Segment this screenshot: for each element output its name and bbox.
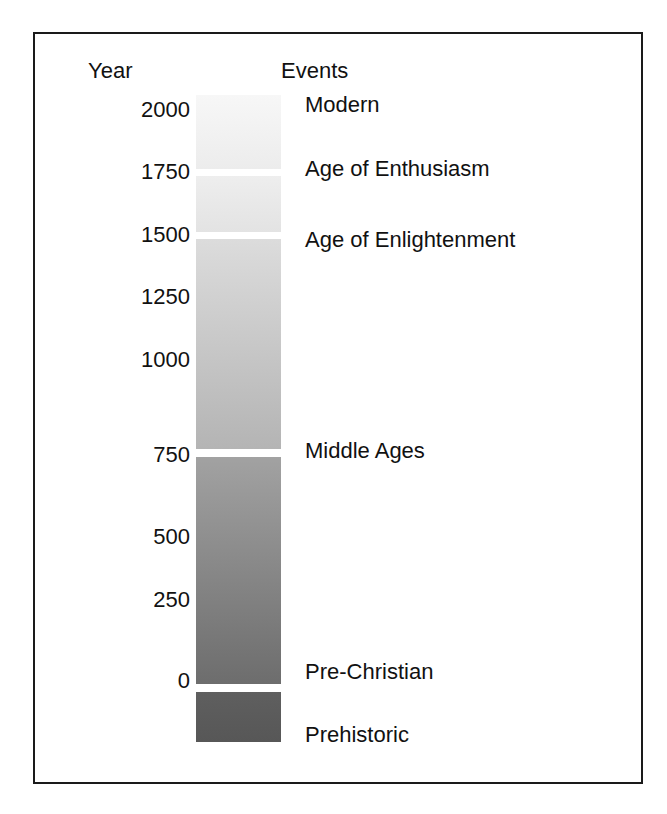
year-tick-label: 0 — [70, 670, 190, 692]
event-label: Middle Ages — [305, 440, 425, 462]
event-label: Age of Enthusiasm — [305, 158, 490, 180]
event-label: Prehistoric — [305, 724, 409, 746]
colorbar-segment — [196, 238, 281, 449]
year-tick-label: 750 — [70, 444, 190, 466]
event-label: Pre-Christian — [305, 661, 433, 683]
year-tick-label: 250 — [70, 589, 190, 611]
colorbar-segment — [196, 95, 281, 169]
year-axis: 200017501500125010007505002500 — [66, 0, 190, 814]
colorbar-separator — [196, 235, 281, 239]
year-tick-label: 1000 — [70, 349, 190, 371]
event-label: Age of Enlightenment — [305, 229, 515, 251]
year-tick-label: 2000 — [70, 99, 190, 121]
events-axis: ModernAge of EnthusiasmAge of Enlightenm… — [305, 0, 635, 814]
year-tick-label: 1750 — [70, 161, 190, 183]
colorbar-separator — [196, 688, 281, 692]
colorbar-separator — [196, 453, 281, 457]
colorbar-segment — [196, 691, 281, 742]
year-tick-label: 1250 — [70, 286, 190, 308]
colorbar-segment — [196, 456, 281, 684]
event-label: Modern — [305, 94, 380, 116]
year-tick-label: 500 — [70, 526, 190, 548]
timeline-colorbar — [196, 95, 281, 742]
timeline-figure: Year Events 2000175015001250100075050025… — [0, 0, 667, 814]
year-tick-label: 1500 — [70, 224, 190, 246]
colorbar-separator — [196, 172, 281, 176]
colorbar-segment — [196, 175, 281, 232]
